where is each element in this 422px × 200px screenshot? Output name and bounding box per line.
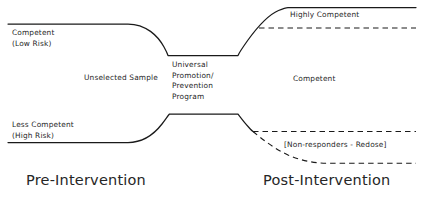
caption-post-intervention: Post-Intervention: [263, 172, 390, 189]
label-non-responders-redose: [Non-responders - Redose]: [284, 141, 387, 150]
diagram-canvas: Competent (Low Risk) Unselected Sample U…: [0, 0, 422, 200]
label-competent-post-intervention: Competent: [293, 75, 336, 84]
label-universal-promotion-prevention-program: Universal Promotion/ Prevention Program: [172, 60, 214, 102]
label-competent-low-risk: Competent (Low Risk): [12, 28, 55, 49]
caption-pre-intervention: Pre-Intervention: [26, 172, 146, 189]
label-highly-competent: Highly Competent: [290, 11, 359, 20]
label-unselected-sample: Unselected Sample: [84, 74, 158, 83]
label-less-competent-high-risk: Less Competent (High Risk): [12, 120, 74, 141]
